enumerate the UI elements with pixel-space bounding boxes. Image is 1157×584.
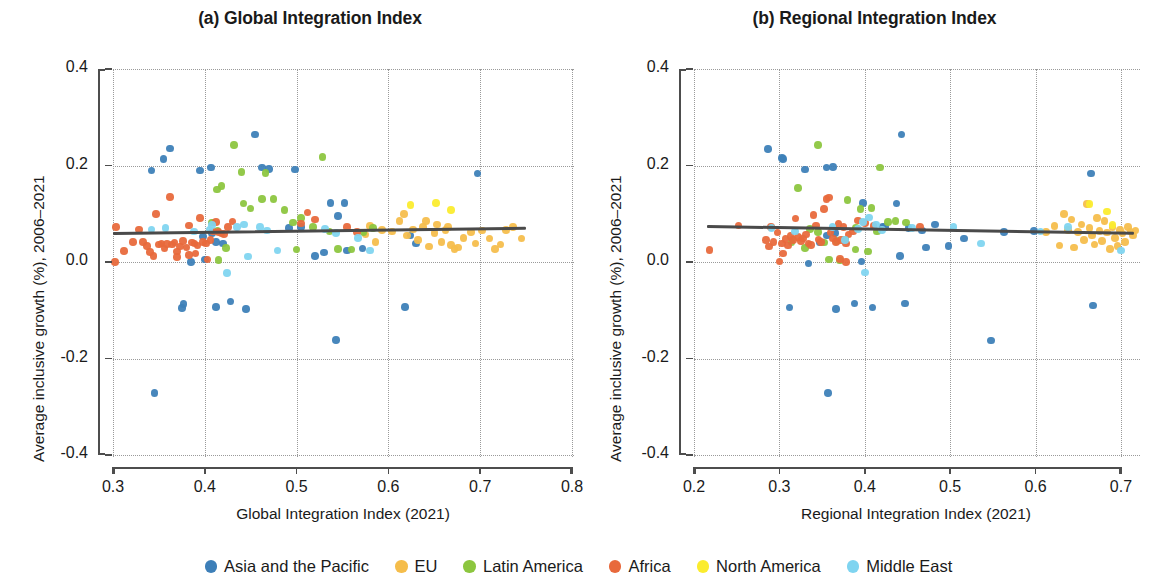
scatter-point — [1111, 234, 1119, 242]
scatter-point — [977, 240, 985, 248]
y-axis-line — [679, 69, 681, 455]
scatter-point — [1087, 170, 1095, 178]
scatter-point — [764, 145, 772, 153]
legend-item[interactable]: Latin America — [463, 557, 582, 576]
gridline-vertical — [572, 69, 573, 457]
gridline-horizontal — [113, 455, 574, 456]
scatter-point — [166, 145, 174, 153]
x-tick-mark — [779, 467, 781, 474]
legend-swatch-icon — [697, 560, 710, 573]
legend-item[interactable]: EU — [395, 557, 437, 576]
y-tick-label: -0.2 — [594, 348, 669, 366]
gridline-vertical — [480, 69, 481, 457]
y-axis-cap-top — [98, 69, 105, 71]
scatter-point — [1103, 208, 1111, 216]
scatter-point — [497, 241, 505, 249]
scatter-point — [829, 163, 837, 171]
gridline-horizontal — [113, 166, 574, 167]
scatter-point — [438, 238, 446, 246]
y-tick-label: 0.4 — [594, 58, 669, 76]
figure-container: (a) Global Integration Index -0.4-0.20.0… — [0, 0, 1157, 584]
scatter-point — [1106, 245, 1114, 253]
scatter-point — [396, 217, 404, 225]
scatter-point — [794, 184, 802, 192]
scatter-point — [213, 186, 221, 194]
y-tick-mark — [686, 358, 693, 360]
scatter-point — [832, 305, 840, 313]
gridline-horizontal — [694, 455, 1140, 456]
scatter-point — [825, 256, 833, 264]
scatter-point — [779, 155, 787, 163]
scatter-point — [327, 199, 335, 207]
scatter-point — [180, 300, 188, 308]
scatter-point — [152, 210, 160, 218]
x-axis-line — [694, 467, 1121, 469]
scatter-point — [242, 305, 250, 313]
x-tick-mark — [479, 467, 481, 474]
scatter-point — [422, 217, 430, 225]
legend-label: EU — [415, 557, 438, 576]
scatter-point — [348, 246, 356, 254]
gridline-vertical — [950, 69, 951, 457]
scatter-point — [227, 298, 235, 306]
scatter-point — [518, 235, 526, 243]
scatter-point — [706, 246, 714, 254]
gridline-horizontal — [113, 69, 574, 70]
scatter-point — [864, 248, 872, 256]
legend-item[interactable]: Middle East — [847, 557, 953, 576]
scatter-point — [776, 258, 784, 266]
y-tick-label: -0.4 — [594, 444, 669, 462]
scatter-point — [432, 199, 440, 207]
legend-item[interactable]: Asia and the Pacific — [205, 557, 369, 576]
scatter-point — [807, 241, 815, 249]
trend-line — [113, 226, 526, 234]
scatter-point — [414, 236, 422, 244]
scatter-point — [884, 218, 892, 226]
y-tick-label: -0.2 — [13, 348, 88, 366]
scatter-point — [1080, 236, 1088, 244]
legend-swatch-icon — [205, 560, 218, 573]
x-tick-label: 0.7 — [440, 478, 520, 496]
y-tick-mark — [105, 68, 112, 70]
scatter-point — [187, 258, 195, 266]
scatter-point — [293, 246, 301, 254]
x-tick-mark — [864, 467, 866, 474]
scatter-point — [120, 247, 128, 255]
scatter-point — [770, 238, 778, 246]
x-tick-label: 0.2 — [654, 478, 734, 496]
gridline-vertical — [388, 69, 389, 457]
scatter-point — [861, 269, 869, 277]
legend-item[interactable]: North America — [697, 557, 821, 576]
legend-label: Middle East — [866, 557, 952, 576]
gridline-vertical — [297, 69, 298, 457]
scatter-point — [258, 195, 266, 203]
scatter-point — [281, 206, 289, 214]
scatter-point — [223, 269, 231, 277]
legend-label: Africa — [628, 557, 670, 576]
scatter-point — [1101, 217, 1109, 225]
scatter-point — [1060, 210, 1068, 218]
legend-item[interactable]: Africa — [609, 557, 671, 576]
scatter-point — [865, 214, 873, 222]
x-tick-label: 0.6 — [996, 478, 1076, 496]
scatter-point — [817, 238, 825, 246]
scatter-point — [852, 246, 860, 254]
scatter-point — [869, 304, 877, 312]
scatter-point — [460, 234, 468, 242]
scatter-point — [447, 206, 455, 214]
y-tick-mark — [686, 261, 693, 263]
scatter-point — [334, 212, 342, 220]
scatter-point — [842, 258, 850, 266]
scatter-point — [868, 204, 876, 212]
x-tick-mark — [112, 467, 114, 474]
gridline-horizontal — [113, 262, 574, 263]
legend-swatch-icon — [463, 560, 476, 573]
x-axis-label-a: Global Integration Index (2021) — [143, 505, 543, 523]
scatter-point — [814, 141, 822, 149]
x-tick-label: 0.4 — [165, 478, 245, 496]
x-tick-mark — [296, 467, 298, 474]
scatter-point — [111, 258, 119, 266]
y-tick-mark — [105, 454, 112, 456]
scatter-point — [238, 168, 246, 176]
legend-swatch-icon — [609, 560, 622, 573]
